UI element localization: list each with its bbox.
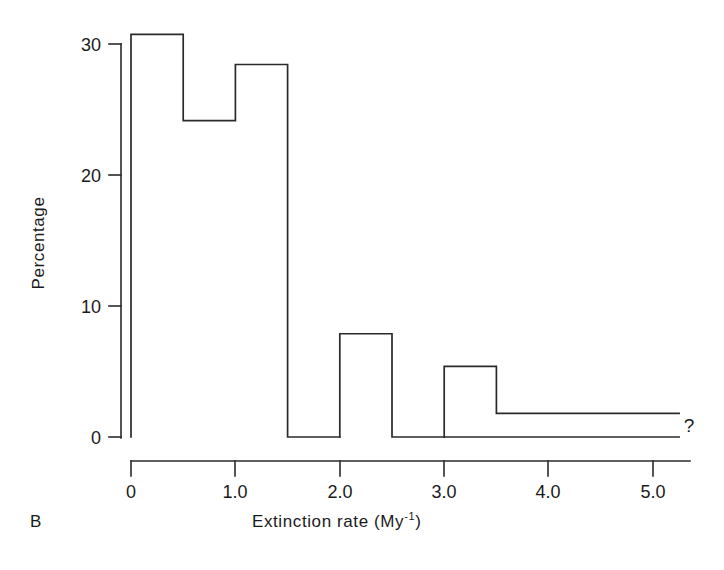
hist-bar-group-left xyxy=(131,34,340,437)
question-mark-annotation: ? xyxy=(684,415,695,436)
x-tick-label-2-0: 2.0 xyxy=(327,482,352,502)
x-axis-title-superscript: -1 xyxy=(404,510,415,522)
x-tick-label-1-0: 1.0 xyxy=(222,482,247,502)
histogram-chart: 30 20 10 0 Percentage 0 1.0 2.0 3.0 4.0 … xyxy=(0,0,724,570)
hist-bar-group-right xyxy=(444,366,679,437)
y-tick-label-0: 0 xyxy=(91,428,101,448)
y-axis-title: Percentage xyxy=(29,197,48,290)
x-tick-label-4-0: 4.0 xyxy=(535,482,560,502)
x-axis-title: Extinction rate (My-1) xyxy=(252,510,421,531)
histogram-bars xyxy=(131,34,679,437)
panel-label: B xyxy=(30,512,41,531)
x-tick-label-3-0: 3.0 xyxy=(431,482,456,502)
hist-bar-2-0-to-2-5 xyxy=(340,334,444,437)
y-axis-group: 30 20 10 0 Percentage xyxy=(29,35,121,448)
y-tick-label-10: 10 xyxy=(81,297,101,317)
svg-text:Extinction rate (My-1): Extinction rate (My-1) xyxy=(252,510,421,531)
x-axis-group: 0 1.0 2.0 3.0 4.0 5.0 Extinction rate (M… xyxy=(126,461,690,531)
figure-panel-b: 30 20 10 0 Percentage 0 1.0 2.0 3.0 4.0 … xyxy=(0,0,724,570)
x-axis-title-main: Extinction rate (My xyxy=(252,512,404,531)
y-tick-label-20: 20 xyxy=(81,166,101,186)
x-axis-title-close: ) xyxy=(415,512,421,531)
y-tick-label-30: 30 xyxy=(81,35,101,55)
x-tick-label-5-0: 5.0 xyxy=(640,482,665,502)
x-tick-label-0: 0 xyxy=(126,482,136,502)
